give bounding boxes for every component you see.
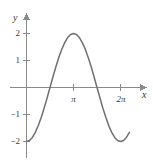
y-axis-arrowhead [23,13,30,20]
y-tick-label-neg1: −1 [2,110,20,119]
y-tick-label-neg2: −2 [2,137,20,146]
x-axis-label: x [142,90,146,100]
plot-area [0,0,153,163]
y-axis-label: y [13,13,17,23]
y-tick-label-2: 2 [6,29,20,38]
y-tick-label-1: 1 [6,56,20,65]
cosine-graph-figure: y x 2 1 −1 −2 π 2π [0,0,153,163]
x-tick-label-2pi: 2π [110,95,132,104]
x-tick-label-pi: π [64,95,83,104]
